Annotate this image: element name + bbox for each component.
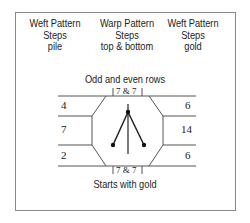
bottom-label: 7 & 7 xyxy=(116,165,137,175)
right-endpoint-dot xyxy=(142,143,146,147)
left-value-middle: 7 xyxy=(61,123,67,135)
left-endpoint-dot xyxy=(111,143,115,147)
right-value-top: 6 xyxy=(185,99,191,111)
left-value-bottom: 2 xyxy=(61,149,67,161)
pivot-dot xyxy=(126,110,130,114)
caption: Starts with gold xyxy=(15,178,235,190)
right-value-middle: 14 xyxy=(181,123,192,135)
top-label: 7 & 7 xyxy=(116,86,137,96)
left-value-top: 4 xyxy=(61,99,67,111)
right-value-bottom: 6 xyxy=(185,149,191,161)
